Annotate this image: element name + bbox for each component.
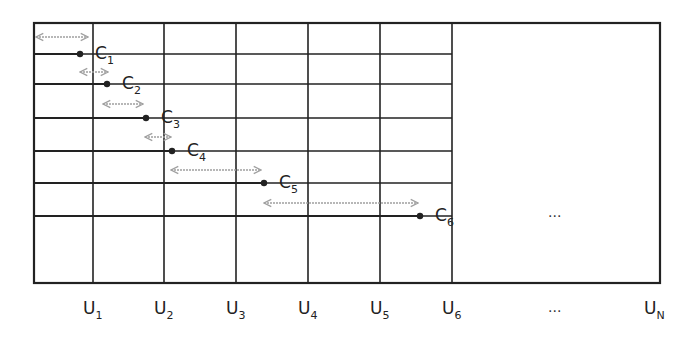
channel-endpoint-4 bbox=[169, 148, 175, 154]
channel-endpoint-6 bbox=[417, 213, 423, 219]
channel-label-1: C1 bbox=[95, 43, 114, 67]
slot-label-6: U6 bbox=[442, 298, 461, 322]
slot-label-3: U3 bbox=[226, 298, 245, 322]
grid-ellipsis: ... bbox=[548, 204, 561, 220]
channel-label-5: C5 bbox=[279, 172, 298, 196]
slot-grid bbox=[34, 23, 660, 283]
slot-label-N: UN bbox=[644, 298, 665, 322]
channel-label-4: C4 bbox=[187, 140, 206, 164]
channel-label-6: C6 bbox=[435, 205, 454, 229]
slot-label-4: U4 bbox=[298, 298, 317, 322]
channel-endpoint-2 bbox=[104, 81, 110, 87]
channel-endpoint-5 bbox=[261, 180, 267, 186]
channel-endpoint-1 bbox=[77, 51, 83, 57]
axis-ellipsis: ... bbox=[548, 299, 561, 315]
channel-endpoint-3 bbox=[143, 115, 149, 121]
channel-label-2: C2 bbox=[122, 73, 141, 97]
channel-slot-diagram: C1C2C3C4C5C6U1U2U3U4U5U6UN...... bbox=[0, 0, 697, 343]
slot-label-5: U5 bbox=[370, 298, 389, 322]
slot-label-2: U2 bbox=[154, 298, 173, 322]
slot-label-1: U1 bbox=[83, 298, 102, 322]
grid-border bbox=[34, 23, 660, 283]
